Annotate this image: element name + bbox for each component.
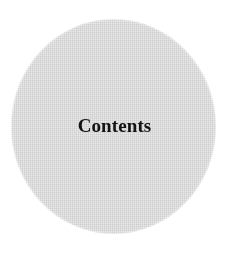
contents-title-container: Contents: [11, 19, 216, 234]
contents-disc: Contents: [11, 19, 216, 234]
page-title: Contents: [78, 116, 152, 135]
page-canvas: Contents: [0, 0, 240, 258]
